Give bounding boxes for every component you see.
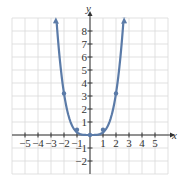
- x-axis-label: x: [171, 129, 177, 141]
- data-point: [62, 91, 66, 95]
- y-tick-label: −1: [75, 142, 87, 154]
- data-point: [88, 133, 92, 137]
- data-point: [101, 128, 105, 132]
- y-tick-label: 7: [82, 38, 88, 50]
- x-tick-label: 4: [139, 137, 145, 149]
- x-tick-label: 2: [113, 137, 119, 149]
- y-tick-label: 4: [82, 77, 88, 89]
- y-tick-label: 6: [82, 51, 88, 63]
- x-tick-label: −3: [45, 137, 57, 149]
- data-point: [75, 128, 79, 132]
- y-tick-label: 3: [82, 90, 88, 102]
- y-tick-label: −2: [75, 155, 87, 167]
- y-tick-label: 5: [82, 64, 88, 76]
- y-tick-label: 1: [82, 116, 88, 128]
- graph-plot: −5−4−3−2−11234587654321−1−2 x y: [0, 0, 180, 184]
- y-tick-label: 2: [82, 103, 88, 115]
- y-tick-label: 8: [82, 25, 88, 37]
- x-tick-label: 5: [152, 137, 158, 149]
- data-point: [114, 91, 118, 95]
- x-tick-label: 1: [100, 137, 106, 149]
- x-tick-label: −5: [19, 137, 31, 149]
- axes: [12, 11, 175, 174]
- y-axis-label: y: [85, 2, 91, 14]
- x-tick-label: −4: [32, 137, 44, 149]
- x-tick-label: 3: [126, 137, 132, 149]
- x-tick-label: −2: [58, 137, 70, 149]
